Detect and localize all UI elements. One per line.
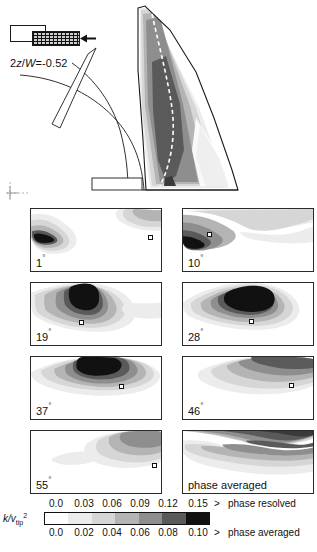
- flow-arrow-icon: [80, 33, 96, 44]
- probe-marker: [148, 235, 153, 240]
- probe-marker: [249, 319, 254, 324]
- panel-46deg[interactable]: 46°: [182, 356, 314, 420]
- panel-1deg[interactable]: 1°: [30, 208, 162, 272]
- colorbar-segment: [45, 513, 68, 524]
- colorbar-segment: [162, 513, 185, 524]
- overflow-symbol: >: [214, 527, 220, 538]
- hub-platform: [92, 178, 142, 190]
- measurement-plane-inset: [10, 24, 96, 54]
- colorbar-ticks-phase-resolved: 0.0 0.03 0.06 0.09 0.12 0.15 > phase res…: [0, 498, 317, 511]
- colorbar-axis-label: k/vtip2: [3, 512, 27, 526]
- panel-28deg[interactable]: 28°: [182, 282, 314, 346]
- panel-10deg[interactable]: 10°: [182, 208, 314, 272]
- colorbar-segment: [186, 513, 209, 524]
- panel-label: 55°: [36, 479, 51, 491]
- tick-label: 0.08: [158, 527, 177, 538]
- axis-origin-marker: [6, 180, 32, 202]
- panel-phase-averaged[interactable]: phase averaged: [182, 430, 314, 494]
- tick-label: 0.15: [188, 498, 207, 509]
- tick-label: 0.04: [102, 527, 121, 538]
- panel-label: 28°: [188, 331, 203, 343]
- panel-55deg[interactable]: 55°: [30, 430, 162, 494]
- panel-label: 1°: [36, 257, 45, 269]
- probe-marker: [289, 383, 294, 388]
- tick-label: 0.10: [188, 527, 207, 538]
- spanwise-position-label: 2z/W=-0.52: [10, 57, 68, 69]
- tick-label: 0.06: [102, 498, 121, 509]
- casing-wall-outer: [20, 75, 144, 190]
- phase-panel-grid: 1° 10°: [30, 208, 314, 494]
- panel-19deg[interactable]: 19°: [30, 282, 162, 346]
- probe-marker: [119, 384, 124, 389]
- panel-contour: [31, 209, 161, 271]
- tick-label: 0.06: [130, 527, 149, 538]
- colorbar-segment: [92, 513, 115, 524]
- colorbar-segment: [139, 513, 162, 524]
- panel-label: phase averaged: [188, 479, 267, 491]
- colorbar-segment: [115, 513, 138, 524]
- panel-37deg[interactable]: 37°: [30, 356, 162, 420]
- tick-label: 0.0: [49, 498, 63, 509]
- figure-root: 2z/W=-0.52 1°: [0, 0, 317, 552]
- colorbar-segment: [68, 513, 91, 524]
- tick-label: 0.03: [74, 498, 93, 509]
- panel-label: 46°: [188, 405, 203, 417]
- tick-label: 0.09: [130, 498, 149, 509]
- overflow-symbol: >: [214, 498, 220, 509]
- panel-label: 10°: [188, 257, 203, 269]
- probe-marker: [207, 232, 212, 237]
- probe-marker: [152, 463, 157, 468]
- colorbar-ticks-phase-averaged: 0.0 0.02 0.04 0.06 0.08 0.10 > phase ave…: [0, 527, 317, 540]
- tick-label: 0.02: [74, 527, 93, 538]
- series-label-phase-averaged: phase averaged: [228, 527, 300, 538]
- measurement-grid-icon: [32, 31, 80, 46]
- panel-label: 37°: [36, 405, 51, 417]
- tick-label: 0.12: [158, 498, 177, 509]
- tick-label: 0.0: [49, 527, 63, 538]
- top-schematic: 2z/W=-0.52: [0, 0, 317, 200]
- colorbar-gradient: [44, 512, 210, 525]
- panel-label: 19°: [36, 331, 51, 343]
- colorbar-legend: k/vtip2 0.0 0.03 0.06 0.09 0.12 0.15 > p…: [0, 498, 317, 552]
- probe-marker: [79, 320, 84, 325]
- series-label-phase-resolved: phase resolved: [228, 498, 296, 509]
